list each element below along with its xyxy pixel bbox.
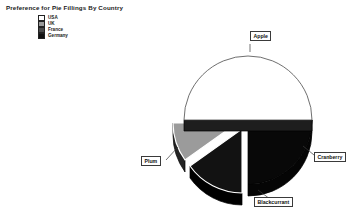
slice-apple-top[interactable] [184,56,312,120]
slice-apple-side [184,120,312,131]
slice-label-plum[interactable]: Plum [141,156,161,166]
slice-label-blackcurrant[interactable]: Blackcurrant [254,197,293,207]
pie-chart [0,0,360,220]
pie-chart-svg [0,0,360,220]
slice-label-cranberry[interactable]: Cranberry [314,152,346,162]
chart-page: Preference for Pie Fillings By Country U… [0,0,360,220]
slice-label-apple[interactable]: Apple [250,31,271,41]
